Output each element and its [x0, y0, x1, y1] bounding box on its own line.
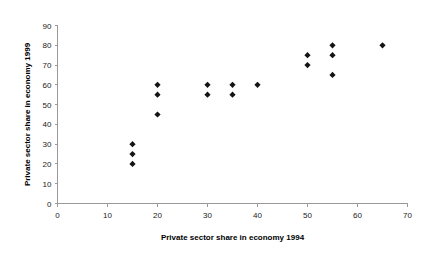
data-point	[204, 92, 210, 98]
data-point	[229, 82, 235, 88]
data-point	[304, 52, 310, 58]
data-point	[129, 141, 135, 147]
data-point	[329, 42, 335, 48]
y-tick-label: 30	[43, 140, 52, 149]
x-tick-label: 70	[403, 211, 412, 220]
data-point	[304, 62, 310, 68]
data-point	[129, 151, 135, 157]
y-tick-label: 0	[47, 200, 52, 209]
data-point	[229, 92, 235, 98]
y-axis-ticks: 0102030405060708090	[43, 22, 58, 209]
y-tick-label: 10	[43, 180, 52, 189]
scatter-chart: 0102030405060708090 010203040506070 Priv…	[0, 0, 432, 257]
x-tick-label: 30	[203, 211, 212, 220]
data-point	[379, 42, 385, 48]
data-point	[129, 161, 135, 167]
y-tick-label: 60	[43, 81, 52, 90]
y-axis-title: Private sector share in economy 1999	[23, 42, 32, 186]
x-tick-label: 40	[253, 211, 262, 220]
x-axis-ticks: 010203040506070	[55, 204, 412, 220]
x-axis-title: Private sector share in economy 1994	[161, 233, 305, 242]
y-tick-label: 90	[43, 22, 52, 31]
x-tick-label: 10	[103, 211, 112, 220]
y-tick-label: 80	[43, 41, 52, 50]
x-tick-label: 0	[55, 211, 60, 220]
y-tick-label: 20	[43, 160, 52, 169]
x-tick-label: 50	[303, 211, 312, 220]
data-point	[154, 111, 160, 117]
x-tick-label: 20	[153, 211, 162, 220]
plot-area: 0102030405060708090 010203040506070 Priv…	[0, 0, 432, 257]
data-point	[329, 52, 335, 58]
data-point	[204, 82, 210, 88]
data-point	[254, 82, 260, 88]
y-tick-label: 50	[43, 101, 52, 110]
data-point-markers	[129, 42, 385, 167]
y-tick-label: 70	[43, 61, 52, 70]
data-point	[154, 82, 160, 88]
y-tick-label: 40	[43, 120, 52, 129]
x-tick-label: 60	[353, 211, 362, 220]
data-point	[154, 92, 160, 98]
data-point	[329, 72, 335, 78]
